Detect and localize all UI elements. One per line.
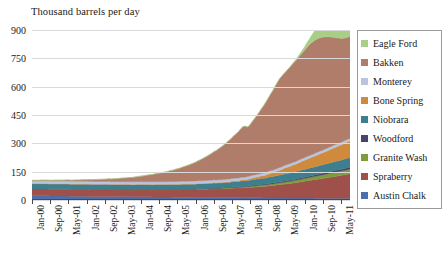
legend-item-label: Niobrara <box>373 115 409 125</box>
x-axis-tick <box>268 200 269 204</box>
x-axis-tick-label: May-03 <box>127 205 137 235</box>
x-axis-tick-label: May-09 <box>290 205 300 235</box>
legend-item[interactable]: Spraberry <box>361 167 439 186</box>
y-axis-tick-label: 300 <box>11 138 26 149</box>
x-axis-labels: Jan-00Sep-00May-01Jan-02Sep-02May-03Jan-… <box>32 205 350 255</box>
x-axis-tick-label: Sep-00 <box>54 205 64 232</box>
legend-item[interactable]: Woodford <box>361 129 439 148</box>
x-axis-tick-label: Jan-00 <box>36 205 46 230</box>
x-axis-tick <box>123 200 124 204</box>
x-axis-tick <box>32 200 33 204</box>
y-axis-tick-label: 900 <box>11 25 26 36</box>
x-axis-tick-label: Jan-06 <box>200 205 210 230</box>
x-axis-tick <box>50 200 51 204</box>
x-axis-tick-label: May-01 <box>72 205 82 235</box>
x-axis-tick-label: May-05 <box>181 205 191 235</box>
legend-item-label: Bone Spring <box>373 96 423 106</box>
legend-swatch-icon <box>361 135 368 142</box>
legend-swatch-icon <box>361 97 368 104</box>
legend-item[interactable]: Bakken <box>361 53 439 72</box>
legend-item-label: Bakken <box>373 58 404 68</box>
x-axis-tick-label: Jan-08 <box>254 205 264 230</box>
x-axis-tick-label: Sep-04 <box>163 205 173 232</box>
legend-item-label: Austin Chalk <box>373 191 426 201</box>
legend-swatch-icon <box>361 192 368 199</box>
x-axis-tick <box>323 200 324 204</box>
x-axis-tick-label: Jan-02 <box>91 205 101 230</box>
legend-swatch-icon <box>361 78 368 85</box>
legend-item-label: Monterey <box>373 77 412 87</box>
y-axis-tick-label: 150 <box>11 166 26 177</box>
legend-swatch-icon <box>361 154 368 161</box>
legend-item-label: Granite Wash <box>373 153 427 163</box>
x-axis-tick <box>232 200 233 204</box>
gridline <box>32 30 350 31</box>
x-axis-tick-label: May-11 <box>345 205 355 235</box>
legend-swatch-icon <box>361 116 368 123</box>
x-axis-tick <box>87 200 88 204</box>
x-axis-tick <box>341 200 342 204</box>
x-axis-tick <box>105 200 106 204</box>
legend-item[interactable]: Granite Wash <box>361 148 439 167</box>
x-axis-tick-label: Sep-10 <box>327 205 337 232</box>
legend-swatch-icon <box>361 173 368 180</box>
y-axis-labels: 0150300450600750900 <box>0 24 30 206</box>
chart-legend: Eagle FordBakkenMontereyBone SpringNiobr… <box>357 30 442 209</box>
x-axis-tick <box>159 200 160 204</box>
x-axis-tick <box>305 200 306 204</box>
gridline <box>32 143 350 144</box>
legend-item[interactable]: Bone Spring <box>361 91 439 110</box>
x-axis-tick-label: Sep-02 <box>109 205 119 232</box>
y-axis-tick-label: 0 <box>21 195 26 206</box>
x-axis-tick-label: Sep-06 <box>218 205 228 232</box>
legend-item[interactable]: Eagle Ford <box>361 34 439 53</box>
legend-item[interactable]: Austin Chalk <box>361 186 439 205</box>
y-axis-tick-label: 750 <box>11 53 26 64</box>
legend-swatch-icon <box>361 59 368 66</box>
x-axis-tick-label: May-07 <box>236 205 246 235</box>
legend-item-label: Eagle Ford <box>373 39 417 49</box>
chart-axis-title: Thousand barrels per day <box>31 6 140 17</box>
legend-swatch-icon <box>361 40 368 47</box>
legend-item[interactable]: Niobrara <box>361 110 439 129</box>
x-axis-tick <box>68 200 69 204</box>
x-axis-tick <box>214 200 215 204</box>
x-axis-tick <box>250 200 251 204</box>
stacked-area-chart: Thousand barrels per day 015030045060075… <box>0 0 445 258</box>
gridline <box>32 115 350 116</box>
legend-item-label: Woodford <box>373 134 413 144</box>
plot-area <box>32 30 350 200</box>
gridline <box>32 87 350 88</box>
x-axis-tick-label: Sep-08 <box>272 205 282 232</box>
x-axis-tick <box>286 200 287 204</box>
x-axis-tick <box>177 200 178 204</box>
gridline <box>32 58 350 59</box>
x-axis-tick-label: Jan-04 <box>145 205 155 230</box>
x-axis-tick-label: Jan-10 <box>309 205 319 230</box>
gridline <box>32 172 350 173</box>
legend-item[interactable]: Monterey <box>361 72 439 91</box>
legend-item-label: Spraberry <box>373 172 412 182</box>
x-axis-tick <box>141 200 142 204</box>
y-axis-tick-label: 600 <box>11 81 26 92</box>
y-axis-tick-label: 450 <box>11 110 26 121</box>
x-axis-tick <box>196 200 197 204</box>
